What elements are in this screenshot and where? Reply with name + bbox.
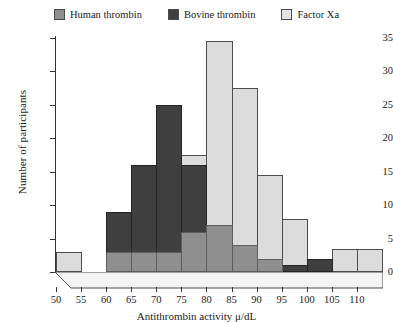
x-tick-mark	[56, 287, 57, 292]
x-tick-label: 80	[193, 294, 219, 305]
x-tick-label: 95	[269, 294, 295, 305]
legend-item-human-thrombin: Human thrombin	[54, 9, 142, 20]
x-axis-title: Antithrombin activity μ/dL	[0, 310, 393, 322]
x-tick-mark	[131, 287, 132, 292]
y-tick-mark	[50, 205, 55, 206]
y-tick-label: 30	[371, 66, 393, 76]
histogram-bar	[181, 232, 207, 272]
x-tick-label: 105	[319, 294, 345, 305]
legend-swatch-human-thrombin	[54, 9, 65, 20]
histogram-bar	[282, 219, 308, 272]
y-tick-label: 25	[371, 100, 393, 110]
y-tick-mark	[50, 272, 55, 273]
legend-swatch-factor-xa	[281, 9, 292, 20]
x-tick-label: 85	[219, 294, 245, 305]
x-tick-mark	[232, 287, 233, 292]
histogram-bar	[131, 252, 157, 272]
x-tick-mark	[282, 287, 283, 292]
plot-area: Number of participants 50556065707580859…	[0, 24, 393, 319]
y-tick-label: 5	[371, 234, 393, 244]
histogram-bar	[307, 259, 333, 272]
y-tick-label: 20	[371, 133, 393, 143]
x-tick-label: 90	[244, 294, 270, 305]
chart-floor-3d	[55, 272, 383, 294]
y-tick-mark	[50, 105, 55, 106]
legend-item-factor-xa: Factor Xa	[281, 9, 339, 20]
histogram-bar	[56, 252, 82, 272]
x-tick-mark	[181, 287, 182, 292]
x-tick-mark	[332, 287, 333, 292]
histogram-bar	[257, 175, 283, 272]
x-tick-label: 50	[43, 294, 69, 305]
x-tick-label: 55	[68, 294, 94, 305]
y-tick-label: 35	[371, 33, 393, 43]
chart-legend: Human thrombin Bovine thrombin Factor Xa	[0, 4, 393, 24]
histogram-bar	[332, 249, 358, 272]
y-tick-mark	[50, 172, 55, 173]
x-tick-mark	[307, 287, 308, 292]
x-tick-mark	[357, 287, 358, 292]
histogram-bar	[357, 249, 383, 272]
y-tick-label: 15	[371, 167, 393, 177]
histogram-bar	[156, 105, 182, 272]
y-axis-title: Number of participants	[16, 62, 28, 222]
y-tick-label: 10	[371, 200, 393, 210]
x-tick-label: 75	[168, 294, 194, 305]
histogram-bar	[156, 252, 182, 272]
histogram-bar	[257, 259, 283, 272]
legend-item-bovine-thrombin: Bovine thrombin	[168, 9, 255, 20]
histogram-bar	[232, 245, 258, 272]
histogram-bar	[206, 225, 232, 272]
legend-label-factor-xa: Factor Xa	[297, 9, 339, 20]
y-axis-tick-labels	[28, 38, 50, 270]
legend-label-human-thrombin: Human thrombin	[70, 9, 142, 20]
x-tick-mark	[156, 287, 157, 292]
histogram-bar	[106, 252, 132, 272]
x-tick-mark	[81, 287, 82, 292]
x-tick-label: 60	[93, 294, 119, 305]
bars-container	[56, 38, 382, 272]
histogram-bar	[282, 265, 308, 272]
y-tick-mark	[50, 239, 55, 240]
x-tick-label: 110	[344, 294, 370, 305]
legend-label-bovine-thrombin: Bovine thrombin	[184, 9, 255, 20]
x-tick-mark	[257, 287, 258, 292]
x-tick-mark	[206, 287, 207, 292]
x-tick-mark	[106, 287, 107, 292]
x-tick-label: 70	[143, 294, 169, 305]
y-tick-mark	[50, 38, 55, 39]
y-tick-mark	[50, 138, 55, 139]
y-tick-mark	[50, 71, 55, 72]
x-tick-label: 65	[118, 294, 144, 305]
x-tick-label: 100	[294, 294, 320, 305]
legend-swatch-bovine-thrombin	[168, 9, 179, 20]
